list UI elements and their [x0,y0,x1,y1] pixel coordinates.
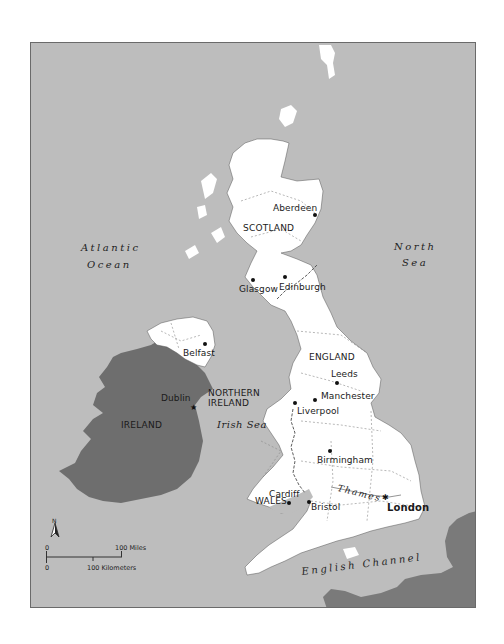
london-capital-star-icon: ✱ [382,494,389,502]
belfast-label: Belfast [183,348,215,358]
cardiff-label: Cardiff [269,489,300,499]
liverpool-label: Liverpool [297,406,339,416]
england-label: ENGLAND [309,352,355,362]
map-frame: Atlantic Ocean North Sea Irish Sea Engli… [30,42,476,608]
leeds-marker [335,381,339,385]
orkney-islands [279,105,297,127]
scale-km-end: 100 Kilometers [87,564,136,572]
cardiff-marker [287,501,291,505]
glasgow-label: Glasgow [239,284,278,294]
liverpool-marker [293,401,297,405]
scale-km-start: 0 [45,564,49,572]
dublin-capital-star-icon: ★ [190,404,197,412]
north-arrow-icon [50,523,60,537]
dublin-label: Dublin [161,393,191,403]
isle-of-wight [343,547,359,559]
ireland-label: IRELAND [121,420,162,430]
manchester-marker [313,398,317,402]
edinburgh-marker [283,275,287,279]
atlantic-ocean-label-line2: Ocean [87,259,132,270]
london-label: London [387,502,429,513]
edinburgh-label: Edinburgh [279,282,326,292]
leeds-label: Leeds [331,369,358,379]
scale-bar [46,551,126,563]
birmingham-marker [328,449,332,453]
north-sea-label-line1: North [394,241,437,252]
aberdeen-label: Aberdeen [273,203,317,213]
glasgow-marker [251,278,255,282]
manchester-label: Manchester [321,391,375,401]
shetland-islands [319,45,335,79]
atlantic-ocean-label-line1: Atlantic [81,242,140,253]
northern-ireland-label-line1: NORTHERN [208,388,260,398]
northern-ireland-label-line2: IRELAND [208,398,249,408]
map-canvas [31,43,476,608]
scotland-label: SCOTLAND [243,223,294,233]
bristol-label: Bristol [311,502,340,512]
aberdeen-marker [313,213,317,217]
irish-sea-label: Irish Sea [217,419,267,430]
north-sea-label-line2: Sea [402,257,428,268]
hebrides-islands [185,173,225,259]
belfast-marker [203,342,207,346]
birmingham-label: Birmingham [317,455,373,465]
